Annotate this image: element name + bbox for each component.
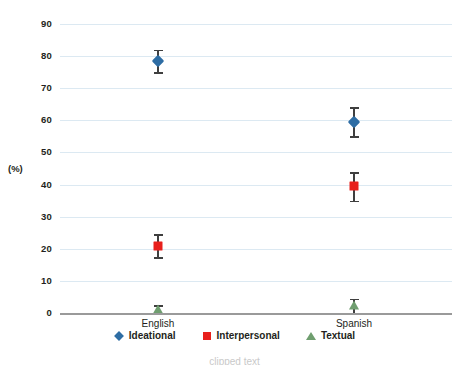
y-tick-label: 0 [6, 308, 52, 318]
legend-label: Ideational [129, 331, 176, 341]
gridline [60, 120, 452, 121]
y-tick-label: 90 [6, 19, 52, 29]
error-bar-cap-upper [154, 50, 163, 52]
legend-item-interpersonal[interactable]: Interpersonal [202, 331, 280, 341]
gridline [60, 185, 452, 186]
clipped-caption: clipped text [0, 356, 469, 365]
legend-swatch-diamond-icon [114, 331, 124, 341]
error-bar-cap-upper [350, 172, 359, 174]
y-axis-title: (%) [8, 164, 23, 174]
y-tick-label: 40 [6, 180, 52, 190]
legend-label: Textual [321, 331, 355, 341]
y-tick-label: 80 [6, 51, 52, 61]
legend-item-ideational[interactable]: Ideational [114, 331, 176, 341]
gridline [60, 281, 452, 282]
y-tick-label: 60 [6, 116, 52, 126]
marker-square [350, 182, 359, 191]
error-bar-cap-upper [154, 234, 163, 236]
gridline [60, 88, 452, 89]
legend-item-textual[interactable]: Textual [306, 331, 355, 341]
legend-swatch-triangle-icon [306, 331, 316, 341]
legend-swatch-square-icon [202, 331, 212, 341]
gridline [60, 249, 452, 250]
chart-figure: (%) 9080706050403020100 EnglishSpanish I… [0, 0, 469, 365]
gridline [60, 152, 452, 153]
legend-label: Interpersonal [217, 331, 280, 341]
y-tick-label: 20 [6, 244, 52, 254]
category-label-english: English [142, 319, 175, 329]
chart-legend: IdeationalInterpersonalTextual [0, 331, 469, 341]
x-axis-line [60, 313, 452, 315]
marker-diamond [348, 116, 361, 129]
error-bar-cap-lower [350, 201, 359, 203]
error-bar-cap-upper [350, 107, 359, 109]
marker-triangle [349, 301, 359, 310]
error-bar-cap-lower [154, 72, 163, 74]
error-bar-cap-lower [154, 257, 163, 259]
y-tick-label: 50 [6, 148, 52, 158]
gridline [60, 217, 452, 218]
y-tick-label: 70 [6, 83, 52, 93]
gridline [60, 24, 452, 25]
category-label-spanish: Spanish [336, 319, 372, 329]
y-tick-label: 10 [6, 276, 52, 286]
error-bar-cap-lower [350, 136, 359, 138]
marker-square [154, 242, 163, 251]
plot-area [60, 24, 452, 313]
y-tick-label: 30 [6, 212, 52, 222]
gridline [60, 56, 452, 57]
